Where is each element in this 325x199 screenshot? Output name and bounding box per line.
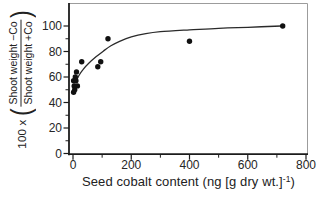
data-point — [75, 83, 80, 88]
fraction-numerator: Shoot weight −Co — [8, 19, 22, 106]
y-axis-label-fraction: Shoot weight −Co Shoot weight +Co — [8, 19, 34, 106]
x-tick-label: 800 — [296, 158, 316, 172]
close-paren: ) — [8, 10, 35, 18]
x-tick-label: 0 — [70, 158, 77, 172]
y-tick-label: 20 — [49, 121, 63, 135]
x-tick-label: 200 — [121, 158, 141, 172]
y-tick-label: 0 — [55, 147, 62, 161]
y-axis-label-prefix: 100 x — [15, 120, 27, 149]
x-axis-label-close: ) — [291, 174, 295, 189]
data-point — [280, 23, 285, 28]
open-paren: ( — [8, 108, 35, 116]
x-tick-label: 400 — [179, 158, 199, 172]
y-tick-label: 40 — [49, 96, 63, 110]
y-axis-label: 100 x ( Shoot weight −Co Shoot weight +C… — [8, 9, 35, 148]
data-point — [187, 39, 192, 44]
data-point — [98, 59, 103, 64]
plot-svg: 0200400600800020406080100 — [0, 0, 325, 199]
data-point — [95, 64, 100, 69]
y-tick-label: 100 — [42, 19, 62, 33]
y-tick-label: 60 — [49, 70, 63, 84]
y-tick-label: 80 — [49, 45, 63, 59]
x-axis-label-text: Seed cobalt content (ng [g dry wt.] — [82, 174, 283, 189]
fraction-denominator: Shoot weight +Co — [22, 19, 35, 106]
fit-curve — [76, 26, 281, 82]
data-point — [105, 36, 110, 41]
x-axis-label-superscript: -1 — [283, 174, 291, 184]
chart-figure: 0200400600800020406080100 100 x ( Shoot … — [0, 0, 325, 199]
data-point — [73, 74, 78, 79]
data-point — [79, 59, 84, 64]
x-tick-label: 600 — [238, 158, 258, 172]
data-point — [74, 69, 79, 74]
x-axis-label: Seed cobalt content (ng [g dry wt.]-1) — [69, 174, 308, 189]
